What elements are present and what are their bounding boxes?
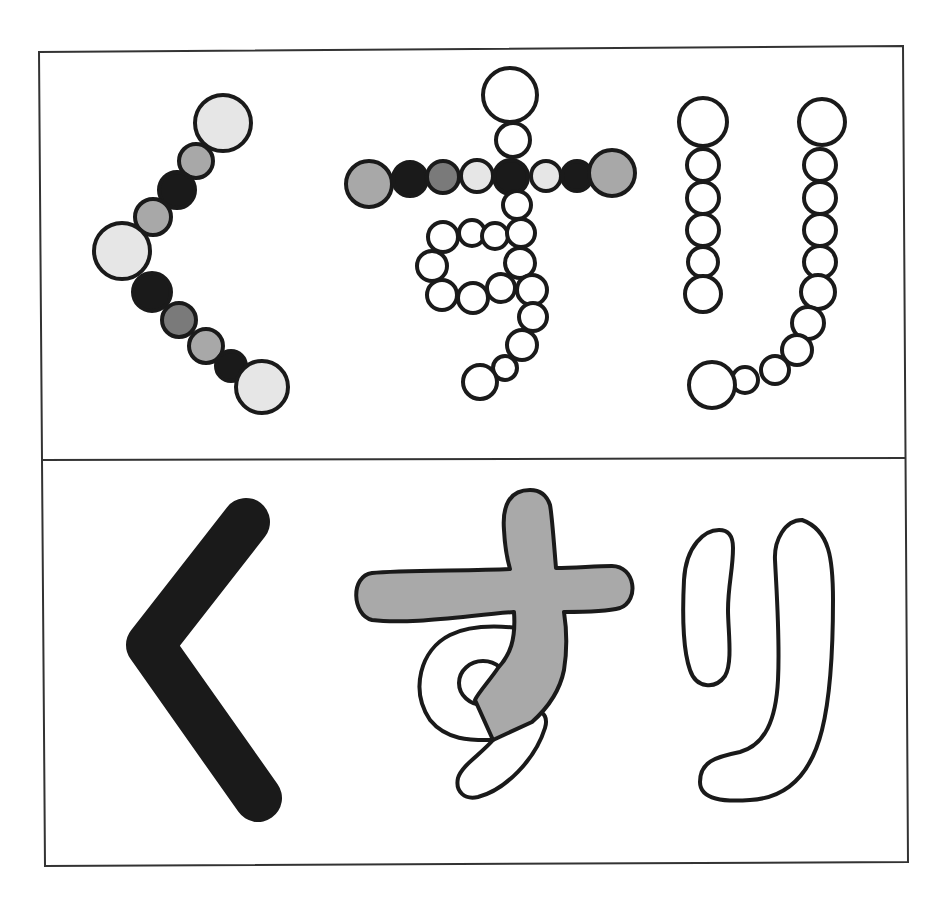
ri-circle-chain (679, 98, 845, 408)
su-brush-stroke (356, 490, 632, 798)
ri-left-stroke (683, 530, 733, 685)
panel-divider (42, 458, 906, 460)
ku-circle-chain (94, 95, 288, 413)
kusuri-illustration (0, 0, 948, 910)
su-circle-chain (346, 68, 635, 399)
ku-brush-stroke (150, 522, 258, 798)
ri-brush-stroke (683, 520, 833, 801)
